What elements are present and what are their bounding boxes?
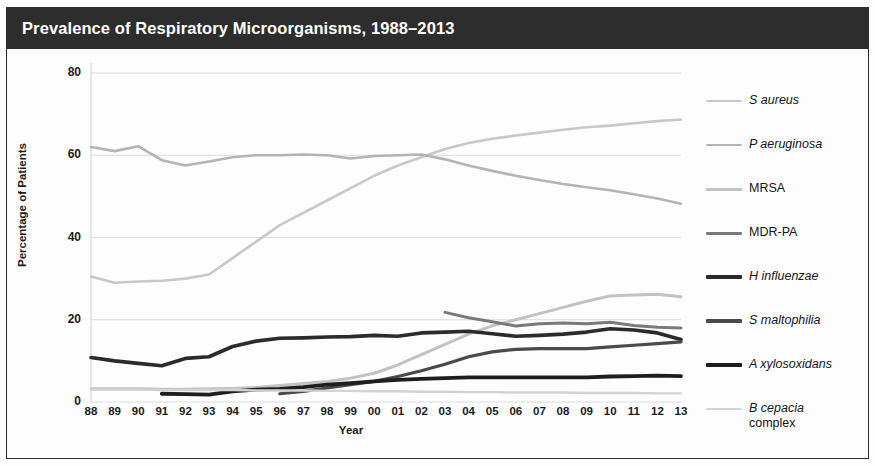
page-title: Prevalence of Respiratory Microorganisms…: [6, 19, 454, 38]
legend-swatch: [706, 408, 742, 410]
legend-swatch: [706, 232, 742, 235]
x-tick-label: 93: [196, 405, 222, 417]
legend-item[interactable]: MRSA: [706, 181, 874, 225]
legend-swatch: [706, 319, 742, 322]
legend-swatch: [706, 363, 742, 367]
x-tick-label: 06: [503, 405, 529, 417]
x-tick-label: 10: [597, 405, 623, 417]
legend-swatch: [706, 100, 742, 103]
legend-swatch: [706, 275, 742, 279]
legend-label: S maltophilia: [749, 313, 821, 328]
x-tick-label: 90: [125, 405, 151, 417]
x-tick-label: 95: [243, 405, 269, 417]
x-tick-label: 04: [456, 405, 482, 417]
x-tick-label: 09: [574, 405, 600, 417]
x-tick-label: 99: [338, 405, 364, 417]
legend-label: P aeruginosa: [749, 137, 822, 152]
x-tick-label: 91: [149, 405, 175, 417]
legend-label: A xylosoxidans: [749, 357, 832, 372]
x-tick-label: 94: [220, 405, 246, 417]
legend-item[interactable]: A xylosoxidans: [706, 357, 874, 401]
x-tick-label: 13: [668, 405, 694, 417]
y-tick-label: 40: [47, 230, 81, 244]
legend-label: H influenzae: [749, 269, 819, 284]
x-tick-label: 12: [644, 405, 670, 417]
x-tick-label: 98: [314, 405, 340, 417]
x-tick-label: 00: [361, 405, 387, 417]
series-line: [280, 342, 681, 394]
x-tick-label: 02: [408, 405, 434, 417]
x-tick-label: 11: [621, 405, 647, 417]
x-tick-label: 08: [550, 405, 576, 417]
x-tick-label: 92: [172, 405, 198, 417]
legend-label: S aureus: [749, 93, 799, 108]
plot-area: Percentage of Patients 020406080 8889909…: [6, 49, 869, 459]
legend-label: MRSA: [749, 181, 785, 196]
legend-label: B cepaciacomplex: [749, 401, 804, 431]
legend-item[interactable]: MDR-PA: [706, 225, 874, 269]
chart-legend: S aureusP aeruginosaMRSAMDR-PAH influenz…: [706, 93, 874, 445]
y-tick-label: 60: [47, 147, 81, 161]
legend-label: MDR-PA: [749, 225, 797, 240]
y-tick-label: 20: [47, 312, 81, 326]
legend-swatch: [706, 188, 742, 191]
legend-item[interactable]: S aureus: [706, 93, 874, 137]
x-tick-label: 01: [385, 405, 411, 417]
y-axis-label: Percentage of Patients: [16, 125, 28, 285]
legend-item[interactable]: S maltophilia: [706, 313, 874, 357]
series-line: [91, 119, 681, 282]
y-tick-label: 0: [47, 394, 81, 408]
chart-figure: Prevalence of Respiratory Microorganisms…: [0, 0, 875, 466]
x-tick-label: 03: [432, 405, 458, 417]
x-tick-label: 07: [526, 405, 552, 417]
x-tick-label: 05: [479, 405, 505, 417]
x-tick-label: 89: [102, 405, 128, 417]
legend-swatch: [706, 144, 742, 147]
x-tick-label: 88: [78, 405, 104, 417]
legend-item[interactable]: H influenzae: [706, 269, 874, 313]
x-tick-label: 96: [267, 405, 293, 417]
series-line: [91, 294, 681, 389]
chart-title-bar: Prevalence of Respiratory Microorganisms…: [6, 7, 869, 49]
legend-item[interactable]: B cepaciacomplex: [706, 401, 874, 445]
y-tick-label: 80: [47, 65, 81, 79]
legend-item[interactable]: P aeruginosa: [706, 137, 874, 181]
x-tick-label: 97: [290, 405, 316, 417]
x-axis-label: Year: [6, 424, 696, 436]
